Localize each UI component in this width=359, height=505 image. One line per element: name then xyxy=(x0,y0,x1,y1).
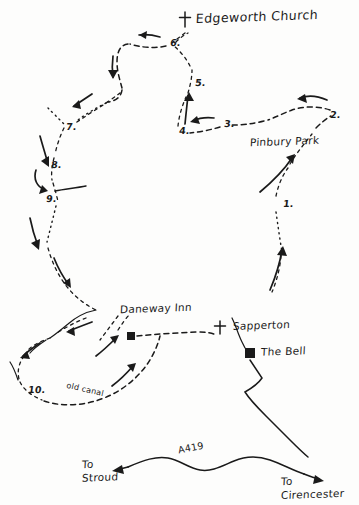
direction-arrow-north-1 xyxy=(270,246,287,290)
place-label-the-bell: The Bell xyxy=(261,346,306,357)
road-label-a419: A419 xyxy=(178,443,204,453)
direction-arrow-southeast-mid xyxy=(54,258,71,288)
waypoint-1: 1. xyxy=(283,199,294,209)
place-label-pinbury-park: Pinbury Park xyxy=(250,136,319,147)
direction-arrow-south-9 xyxy=(30,218,40,250)
direction-arrow-west-3 xyxy=(190,116,214,124)
direction-arrow-northeast-pinbury xyxy=(260,154,295,192)
route-segment-2-to-3 xyxy=(232,94,330,125)
waypoint-7: 7. xyxy=(66,122,77,132)
waypoint-8: 8. xyxy=(51,160,62,170)
marker-daneway-inn xyxy=(127,332,135,340)
direction-arrow-curve-8 xyxy=(35,170,48,194)
direction-arrow-west-daneway xyxy=(66,322,92,336)
route-segment-1-to-2 xyxy=(260,116,331,196)
road-label-to-stroud: To Stroud xyxy=(82,458,118,484)
direction-arrow-west-2 xyxy=(297,94,327,103)
hand-drawn-route-map: .path-dash{fill:none;stroke:#1a1a1a;stro… xyxy=(0,0,359,505)
direction-arrow-southwest-7 xyxy=(72,94,92,109)
waypoint-3: 3. xyxy=(224,119,235,129)
waypoint-2: 2. xyxy=(330,110,341,120)
place-label-sapperton: Sapperton xyxy=(233,320,290,331)
route-segment-1-north xyxy=(270,212,287,292)
direction-arrow-south-7to8 xyxy=(40,136,49,167)
route-segment-3-to-4 xyxy=(190,116,220,133)
waypoint-5: 5. xyxy=(195,78,206,88)
road-sapperton-to-a419 xyxy=(245,360,308,457)
direction-arrow-northeast-canal xyxy=(112,363,136,386)
road-label-to-cirencester: To Cirencester xyxy=(281,475,344,501)
waypoint-4: 4. xyxy=(179,126,190,136)
direction-arrow-west-top xyxy=(139,31,160,39)
waypoint-10: 10. xyxy=(28,385,45,395)
route-segment-9-to-10 xyxy=(30,206,96,310)
cross-icon-sapperton xyxy=(215,321,226,334)
waypoint-9: 9. xyxy=(46,194,57,204)
place-label-old-canal: old canal xyxy=(66,386,104,394)
route-segment-to-7 xyxy=(48,93,120,124)
direction-arrow-northeast-to-daneway xyxy=(96,335,119,356)
route-daneway-to-sapperton xyxy=(137,332,216,336)
cross-icon-edgeworth xyxy=(180,12,191,27)
place-label-edgeworth-church: Edgeworth Church xyxy=(196,10,318,23)
map-drawing: .path-dash{fill:none;stroke:#1a1a1a;stro… xyxy=(0,0,359,505)
route-segment-6-north-loop xyxy=(108,31,166,102)
waypoint-6: 6. xyxy=(170,38,181,48)
place-label-daneway-inn: Daneway Inn xyxy=(120,303,192,314)
marker-the-bell xyxy=(245,348,255,358)
